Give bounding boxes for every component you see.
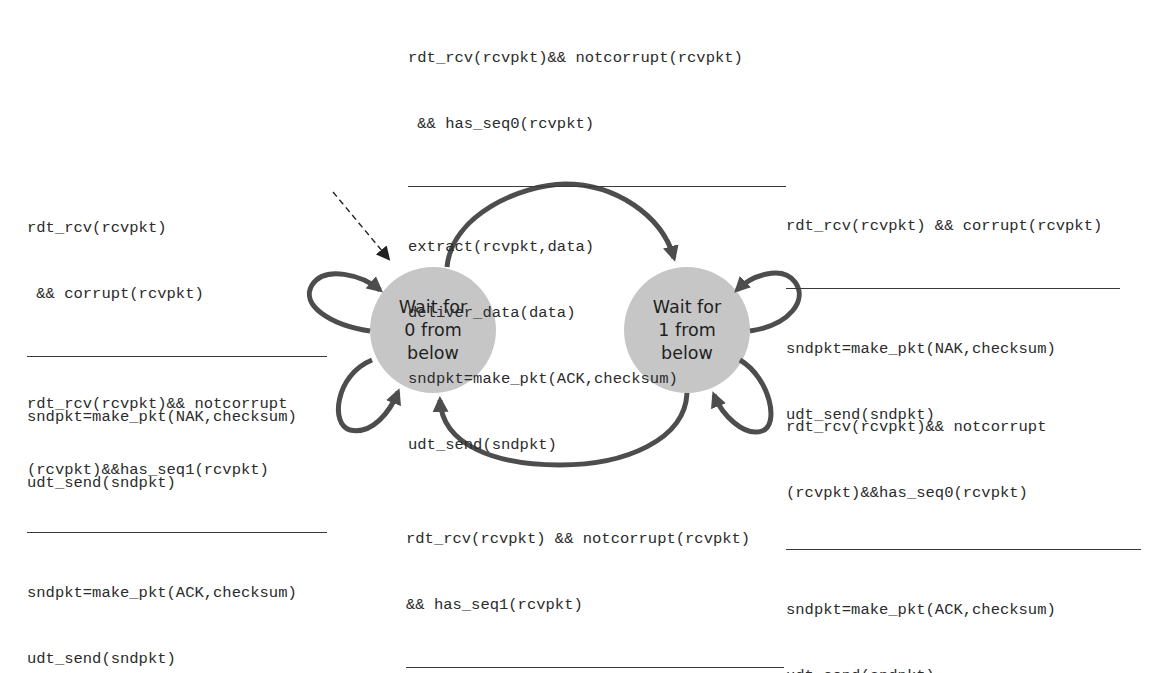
event-action-divider	[786, 288, 1120, 289]
event-action-divider	[786, 549, 1141, 550]
event-line: rdt_rcv(rcvpkt)&& notcorrupt	[27, 393, 327, 415]
event-line: (rcvpkt)&&has_seq0(rcvpkt)	[786, 482, 1141, 504]
event-line: && has_seq1(rcvpkt)	[406, 594, 784, 616]
transition-label-wait1-seq0: rdt_rcv(rcvpkt)&& notcorrupt (rcvpkt)&&h…	[786, 372, 1141, 673]
event-line: rdt_rcv(rcvpkt)&& notcorrupt	[786, 416, 1141, 438]
event-action-divider	[408, 186, 786, 187]
transition-label-0-to-1: rdt_rcv(rcvpkt)&& notcorrupt(rcvpkt) && …	[408, 3, 786, 478]
event-line: rdt_rcv(rcvpkt) && corrupt(rcvpkt)	[786, 215, 1120, 237]
action-line: deliver_data(data)	[408, 302, 786, 324]
action-line: sndpkt=make_pkt(ACK,checksum)	[786, 599, 1141, 621]
transition-label-wait0-seq1: rdt_rcv(rcvpkt)&& notcorrupt (rcvpkt)&&h…	[27, 349, 327, 673]
event-line: rdt_rcv(rcvpkt) && notcorrupt(rcvpkt)	[406, 528, 784, 550]
action-line: extract(rcvpkt,data)	[408, 236, 786, 258]
event-line: && corrupt(rcvpkt)	[27, 283, 327, 305]
event-action-divider	[406, 667, 784, 668]
event-action-divider	[27, 532, 327, 533]
action-line: sndpkt=make_pkt(ACK,checksum)	[27, 582, 327, 604]
action-line: udt_send(sndpkt)	[786, 665, 1141, 673]
event-line: && has_seq0(rcvpkt)	[408, 113, 786, 135]
initial-state-arrow	[333, 192, 388, 258]
action-line: sndpkt=make_pkt(NAK,checksum)	[786, 338, 1120, 360]
event-line: rdt_rcv(rcvpkt)	[27, 217, 327, 239]
transition-label-1-to-0: rdt_rcv(rcvpkt) && notcorrupt(rcvpkt) &&…	[406, 484, 784, 673]
event-line: rdt_rcv(rcvpkt)&& notcorrupt(rcvpkt)	[408, 47, 786, 69]
action-line: udt_send(sndpkt)	[408, 434, 786, 456]
event-line: (rcvpkt)&&has_seq1(rcvpkt)	[27, 459, 327, 481]
action-line: udt_send(sndpkt)	[27, 648, 327, 670]
action-line: sndpkt=make_pkt(ACK,checksum)	[408, 368, 786, 390]
